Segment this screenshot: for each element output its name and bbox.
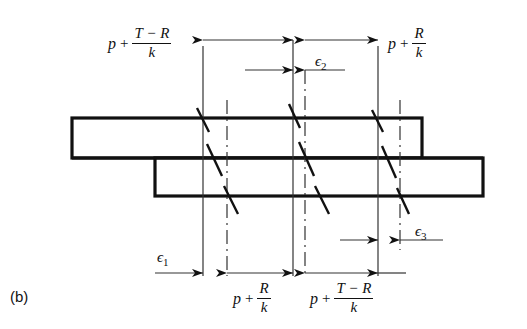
- label-top-left-pressure: p + T − R k: [108, 26, 171, 61]
- upper-bar: [72, 118, 422, 158]
- plus-operator: +: [120, 35, 128, 52]
- fraction: R k: [412, 26, 425, 61]
- plus-operator: +: [245, 290, 253, 307]
- label-epsilon-1: ϵ1: [157, 248, 169, 268]
- label-epsilon-2: ϵ2: [315, 52, 327, 72]
- plus-operator: +: [322, 290, 330, 307]
- label-bottom-left-pressure: p + R k: [233, 281, 271, 316]
- pressure-symbol-p: p: [108, 35, 116, 53]
- pressure-symbol-p: p: [388, 35, 396, 53]
- fraction: T − R k: [334, 281, 373, 316]
- fraction: T − R k: [132, 26, 171, 61]
- pressure-symbol-p: p: [233, 290, 241, 308]
- fraction: R k: [257, 281, 270, 316]
- figure-caption: (b): [10, 288, 28, 305]
- pressure-symbol-p: p: [310, 290, 318, 308]
- label-epsilon-3: ϵ3: [415, 222, 427, 242]
- plus-operator: +: [400, 35, 408, 52]
- label-top-right-pressure: p + R k: [388, 26, 426, 61]
- lower-bar: [155, 158, 483, 196]
- label-bottom-right-pressure: p + T − R k: [310, 281, 373, 316]
